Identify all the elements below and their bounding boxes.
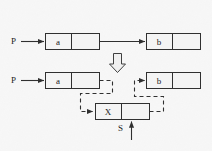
diagram-vectors [0, 0, 212, 151]
node-a-bottom-value: a [56, 77, 60, 86]
node-a-top [46, 34, 100, 50]
diagram-canvas: P P S a b a b X [0, 0, 212, 151]
node-x-new [96, 104, 150, 120]
node-b-top-value: b [157, 38, 162, 47]
pointer-label-s: S [118, 124, 123, 133]
node-b-bottom [147, 73, 201, 89]
node-a-bottom [46, 73, 100, 89]
node-a-top-value: a [56, 38, 60, 47]
transform-down-arrow-icon [110, 54, 126, 73]
pointer-label-p-bottom: P [11, 76, 16, 85]
node-b-top [147, 34, 201, 50]
node-b-bottom-value: b [157, 77, 162, 86]
pointer-label-p-top: P [11, 37, 16, 46]
node-x-value: X [105, 108, 112, 117]
